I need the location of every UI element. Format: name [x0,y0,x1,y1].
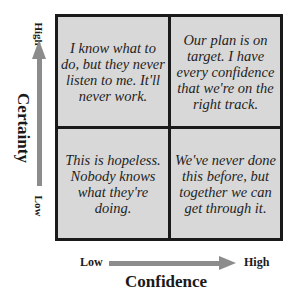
quadrant-high-certainty-low-confidence: I know what to do, but they never listen… [58,17,168,126]
horizontal-divider [58,126,280,129]
up-arrow-icon [32,40,46,59]
right-arrow-icon [219,256,236,270]
x-axis-arrow-shaft [109,261,221,266]
x-axis-title: Confidence [125,272,207,292]
quadrant-low-certainty-high-confidence: We've never done this before, but togeth… [171,129,280,238]
y-axis-low-label: Low [33,195,45,217]
x-axis-high-label: High [244,255,269,270]
y-axis-arrow-shaft [37,58,42,186]
quadrant-low-certainty-low-confidence: This is hopeless. Nobody knows what they… [58,129,168,238]
x-axis-low-label: Low [80,255,103,270]
y-axis-title: Certainty [13,83,33,173]
quadrant-high-certainty-high-confidence: Our plan is on target. I have every conf… [171,17,280,126]
quadrant-grid: I know what to do, but they never listen… [55,14,283,241]
